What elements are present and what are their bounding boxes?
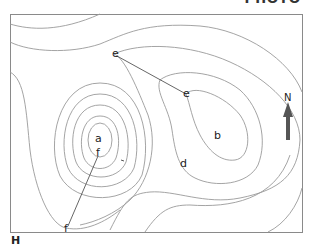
north-label: N <box>284 92 291 103</box>
contour-line <box>145 155 290 232</box>
contour-line <box>80 54 152 225</box>
corner-label: H <box>11 234 20 247</box>
contour-lines <box>10 14 302 232</box>
north-arrow-icon <box>283 102 293 140</box>
point-label-e2: e <box>183 87 190 100</box>
contour-line <box>10 72 120 229</box>
tick-mark <box>121 160 124 161</box>
point-label-e1: e <box>112 47 119 60</box>
section-line-f <box>68 156 98 226</box>
contour-line <box>186 90 248 160</box>
contour-line <box>10 25 302 92</box>
point-label-b: b <box>214 129 221 142</box>
point-label-d: d <box>180 157 187 170</box>
section-line-e <box>117 56 186 94</box>
contour-line <box>10 14 100 28</box>
contour-map: e e a f b d f N <box>0 0 309 247</box>
point-label-a: a <box>95 132 102 145</box>
map-frame <box>11 15 303 233</box>
contour-line <box>268 188 302 232</box>
